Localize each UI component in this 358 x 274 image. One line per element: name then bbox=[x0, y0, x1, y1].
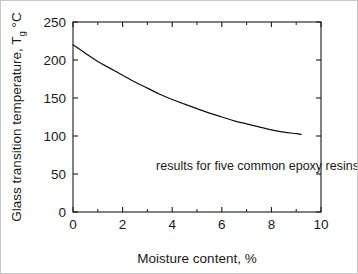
x-tick-label: 0 bbox=[69, 217, 77, 232]
y-tick-label: 100 bbox=[43, 129, 66, 144]
y-tick-label: 50 bbox=[51, 167, 66, 182]
x-axis-major-ticks bbox=[73, 22, 321, 212]
x-axis-tick-labels: 0246810 bbox=[69, 217, 328, 232]
x-tick-label: 2 bbox=[119, 217, 127, 232]
x-tick-label: 6 bbox=[218, 217, 226, 232]
y-tick-label: 250 bbox=[43, 15, 66, 30]
y-axis-tick-labels: 050100150200250 bbox=[43, 15, 66, 220]
plot-area-frame bbox=[73, 22, 321, 212]
y-tick-label: 200 bbox=[43, 53, 66, 68]
line-chart-canvas: 0246810 050100150200250 results for five… bbox=[1, 1, 358, 274]
x-axis-minor-ticks bbox=[98, 22, 296, 212]
data-series-curve bbox=[73, 45, 301, 135]
plot-annotation: results for five common epoxy resins bbox=[156, 159, 358, 173]
y-tick-label: 150 bbox=[43, 91, 66, 106]
y-axis-title: Glass transition temperature, Tg °C bbox=[9, 12, 27, 222]
x-axis-title: Moisture content, % bbox=[137, 251, 256, 266]
y-axis-title-unit: °C bbox=[9, 12, 24, 31]
chart-figure: 0246810 050100150200250 results for five… bbox=[0, 0, 358, 274]
y-tick-label: 0 bbox=[58, 205, 66, 220]
y-axis-major-ticks bbox=[73, 22, 321, 212]
x-tick-label: 10 bbox=[313, 217, 328, 232]
x-tick-label: 4 bbox=[168, 217, 176, 232]
y-axis-title-main: Glass transition temperature, T bbox=[9, 37, 24, 222]
x-tick-label: 8 bbox=[268, 217, 276, 232]
